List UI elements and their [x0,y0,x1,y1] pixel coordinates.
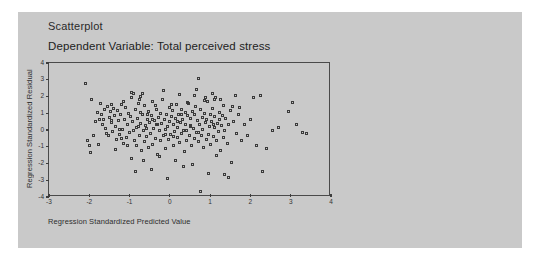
scatter-point [206,100,209,103]
scatter-point [222,104,225,107]
y-tick-mark [46,79,49,80]
scatter-point [205,118,208,121]
scatter-point [92,134,95,137]
scatter-point [154,137,157,140]
scatter-point [89,151,92,154]
scatter-point [199,108,202,111]
y-tick-mark [46,129,49,130]
y-tick-mark [46,146,49,147]
scatter-point [157,116,160,119]
scatter-point [219,149,222,152]
scatter-point [246,134,249,137]
y-tick-label: 3 [32,76,44,83]
scatter-point [159,139,162,142]
y-tick-label: 2 [32,93,44,100]
y-tick-label: 1 [32,110,44,117]
x-axis-title: Regression Standardized Predicted Value [48,217,330,226]
scatter-point [182,165,185,168]
scatter-point [142,159,145,162]
x-tick-mark [129,194,130,197]
scatter-point [203,112,206,115]
x-tick-mark [210,194,211,197]
scatter-point [243,123,246,126]
scatter-point [132,129,135,132]
scatter-point [94,120,97,123]
scatter-point [224,117,227,120]
scatter-point [111,130,114,133]
scatter-point [122,100,125,103]
scatter-point [220,124,223,127]
scatter-point [165,113,168,116]
scatter-point [255,144,258,147]
scatter-point [161,98,164,101]
scatter-point [181,118,184,121]
scatter-point [158,155,161,158]
scatter-point [249,118,252,121]
x-tick-label: 1 [203,199,217,206]
x-tick-label: -1 [123,199,137,206]
scatter-point [184,123,187,126]
scatter-point [148,121,151,124]
scatter-point [178,141,181,144]
scatter-point [265,147,268,150]
scatter-point [227,176,230,179]
scatter-point [117,119,120,122]
scatter-point [96,111,99,114]
scatter-point [175,103,178,106]
scatter-point [197,140,200,143]
y-tick-label: -3 [32,177,44,184]
scatter-point [295,123,298,126]
scatter-point [168,120,171,123]
scatter-point [121,128,124,131]
scatter-point [119,113,122,116]
scatter-point [113,114,116,117]
y-tick-label: -2 [32,160,44,167]
x-tick-label: 3 [284,199,298,206]
scatter-point [136,117,139,120]
scatter-point [90,98,93,101]
scatter-point [180,132,183,135]
scatter-point [217,130,220,133]
scatter-point [232,120,235,123]
scatter-point [151,118,154,121]
scatter-point [185,139,188,142]
scatter-point [197,77,200,80]
scatter-point [222,136,225,139]
scatter-point [287,110,290,113]
scatter-point [124,106,127,109]
scatter-point [120,137,123,140]
scatter-point [150,114,153,117]
scatter-point [98,118,101,121]
scatter-point [180,108,183,111]
scatter-point [159,112,162,115]
scatter-point [195,88,198,91]
scatter-point [115,138,118,141]
chart-title: Scatterplot [48,20,103,32]
scatter-point [112,107,115,110]
scatter-point [84,82,87,85]
scatter-point [139,95,142,98]
scatter-point [176,120,179,123]
y-tick-mark [46,96,49,97]
scatter-point [237,113,240,116]
scatter-point [114,125,117,128]
scatter-point [97,143,100,146]
scatter-point [209,113,212,116]
scatter-point [99,102,102,105]
scatter-point [126,123,129,126]
scatter-point [155,108,158,111]
scatter-point [216,122,219,125]
scatter-point [138,134,141,137]
scatter-point [205,138,208,141]
x-tick-mark [48,194,49,197]
scatter-point [143,104,146,107]
scatter-point [238,106,241,109]
scatter-point [174,159,177,162]
scatter-point [193,113,196,116]
x-tick-label: 0 [163,199,177,206]
scatter-point [150,168,153,171]
scatter-point [252,96,255,99]
scatter-point [118,128,121,131]
x-tick-label: 4 [324,199,338,206]
y-tick-label: -1 [32,143,44,150]
